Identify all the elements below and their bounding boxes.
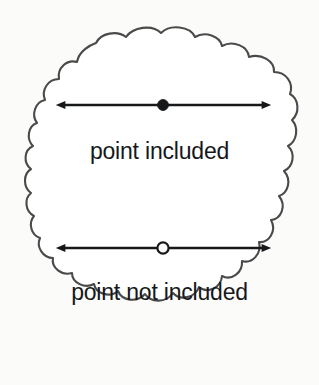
label-point-included: point included xyxy=(0,140,319,163)
filled-dot-icon xyxy=(158,100,169,111)
label-point-not-included: point not included xyxy=(0,281,319,304)
endpoint-notation-figure: point included point not included xyxy=(0,0,319,385)
figure-canvas xyxy=(0,0,319,385)
open-circle-icon xyxy=(157,242,168,253)
